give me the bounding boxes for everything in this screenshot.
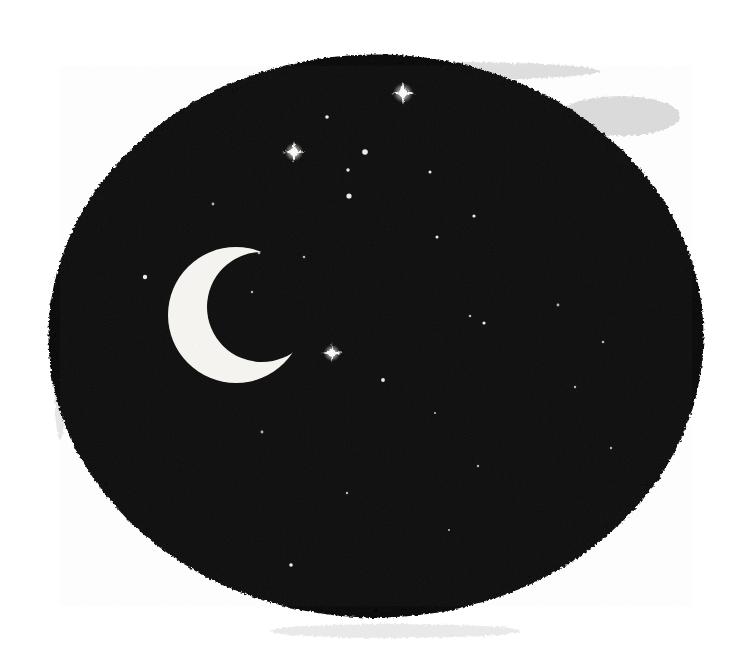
star-tiny-upper-g	[436, 236, 439, 239]
star-tiny-lower-z	[434, 412, 436, 414]
night-sky-svg	[0, 0, 748, 666]
star-tiny-lower-q	[602, 341, 605, 344]
star-tiny-right-m	[482, 321, 485, 324]
star-tiny-lower-n	[469, 315, 472, 318]
star-tiny-lower-y	[195, 344, 197, 346]
star-small-upper-a	[325, 115, 329, 119]
star-tiny-lower-r	[574, 386, 576, 388]
star-tiny-lower-p	[557, 304, 560, 307]
star-tiny-upper-e	[429, 171, 432, 174]
star-tiny-left-h	[212, 203, 215, 206]
star-tiny-lower-t	[261, 431, 264, 434]
star-tiny-lower-s	[477, 465, 479, 467]
star-tiny-lower-w	[448, 529, 450, 531]
star-tiny-lower-x	[610, 447, 612, 449]
star-tiny-mid-i	[258, 252, 261, 255]
star-small-left-k	[143, 275, 147, 279]
star-tiny-lower-u	[346, 492, 348, 494]
night-sky-artwork: Crescent Moon and Stars in a Night Sky A…	[0, 0, 748, 666]
star-tiny-mid-l	[251, 291, 253, 293]
star-small-upper-c	[346, 168, 349, 171]
crescent-moon	[0, 0, 748, 666]
star-tiny-lower-o	[381, 378, 385, 382]
star-tiny-upper-f	[472, 214, 475, 217]
star-tiny-mid-j	[303, 256, 306, 259]
star-tiny-lower-v	[289, 563, 293, 567]
star-medium-upper-b	[362, 149, 368, 155]
star-medium-upper-d	[346, 193, 351, 198]
crescent-moon-body	[0, 0, 748, 666]
